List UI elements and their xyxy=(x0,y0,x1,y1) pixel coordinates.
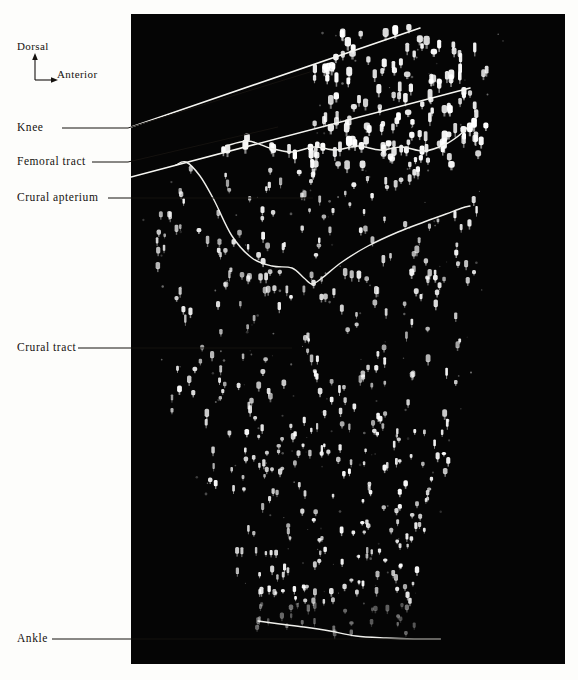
feather-follicle xyxy=(400,603,403,609)
feather-follicle xyxy=(414,522,417,531)
feather-follicle xyxy=(235,547,239,557)
plate-speckle xyxy=(458,375,460,377)
orientation-axes-icon xyxy=(32,53,58,83)
plate-speckle xyxy=(363,432,366,435)
feather-follicle xyxy=(462,92,466,100)
feather-follicle xyxy=(410,454,413,460)
feather-follicle xyxy=(248,196,251,202)
plate-speckle xyxy=(257,427,259,429)
feather-follicle xyxy=(323,410,327,418)
feather-follicle xyxy=(424,258,428,265)
feather-follicle xyxy=(405,109,412,117)
feather-follicle xyxy=(348,424,350,433)
plate-speckle xyxy=(306,437,307,438)
feather-follicle xyxy=(328,227,331,236)
plate-speckle xyxy=(319,105,321,107)
plate-speckle xyxy=(407,437,410,440)
feather-follicle xyxy=(258,589,261,597)
feather-follicle xyxy=(289,605,293,613)
feather-follicle-group xyxy=(142,24,503,639)
plate-speckle xyxy=(265,462,267,464)
feather-follicle xyxy=(363,209,366,216)
feather-follicle xyxy=(208,478,212,484)
feather-follicle xyxy=(371,608,374,613)
plate-speckle xyxy=(196,476,199,479)
plate-speckle xyxy=(235,465,237,467)
feather-follicle xyxy=(414,157,417,164)
feather-follicle xyxy=(413,622,416,629)
feather-follicle xyxy=(456,341,460,351)
feather-follicle xyxy=(383,465,387,474)
plate-speckle xyxy=(385,341,386,342)
plate-speckle xyxy=(411,76,414,79)
feather-follicle xyxy=(335,161,341,169)
feather-follicle xyxy=(373,69,377,82)
feather-follicle xyxy=(345,37,351,51)
feather-follicle xyxy=(452,48,457,58)
feather-follicle xyxy=(371,420,375,428)
feather-follicle xyxy=(319,550,321,556)
feather-follicle xyxy=(330,379,334,385)
feather-follicle xyxy=(258,463,260,470)
feather-follicle xyxy=(383,216,385,223)
plate-speckle xyxy=(360,359,361,360)
annotation-label-crural-apterium: Crural apterium xyxy=(17,191,98,203)
feather-follicle xyxy=(323,599,326,605)
feather-follicle xyxy=(351,104,357,112)
plate-speckle xyxy=(256,314,259,317)
feather-follicle xyxy=(308,450,311,459)
feather-follicle xyxy=(442,409,447,420)
feather-follicle xyxy=(270,467,274,472)
feather-follicle xyxy=(199,359,202,366)
plate-speckle xyxy=(320,527,322,529)
feather-follicle xyxy=(317,559,321,565)
feather-follicle xyxy=(395,539,399,544)
plate-speckle xyxy=(251,354,253,356)
feather-follicle xyxy=(272,285,276,293)
feather-follicle xyxy=(420,101,424,109)
plate-speckle xyxy=(293,395,295,397)
feather-follicle xyxy=(279,177,282,188)
plate-speckle xyxy=(398,538,400,540)
feather-follicle xyxy=(437,219,440,224)
feather-follicle xyxy=(338,385,341,396)
feather-follicle xyxy=(428,113,432,127)
plate-speckle xyxy=(339,510,342,513)
plate-speckle xyxy=(302,346,303,347)
feather-follicle xyxy=(475,206,477,217)
feather-follicle xyxy=(371,549,373,556)
feather-follicle xyxy=(242,354,245,361)
feather-follicle xyxy=(265,451,269,456)
orientation-label-anterior: Anterior xyxy=(57,68,97,80)
feather-follicle xyxy=(473,42,476,56)
feather-follicle xyxy=(424,36,430,49)
feather-follicle xyxy=(442,277,446,283)
feather-follicle xyxy=(416,169,419,180)
feather-follicle xyxy=(426,354,431,365)
feather-follicle xyxy=(278,270,282,276)
feather-follicle xyxy=(270,565,274,575)
plate-speckle xyxy=(387,505,389,507)
feather-follicle xyxy=(171,408,174,414)
feather-follicle xyxy=(224,173,227,179)
feather-follicle xyxy=(257,435,260,440)
feather-follicle xyxy=(293,460,297,467)
feather-follicle xyxy=(277,444,282,449)
plate-speckle xyxy=(321,411,323,413)
feather-follicle xyxy=(176,366,179,373)
plate-speckle xyxy=(460,408,461,409)
feather-follicle xyxy=(214,480,218,489)
plate-speckle xyxy=(290,213,293,216)
feather-follicle xyxy=(435,290,439,298)
feather-follicle xyxy=(363,530,366,534)
feather-follicle xyxy=(339,444,342,453)
plate-speckle xyxy=(467,337,468,338)
plate-speckle xyxy=(257,197,258,198)
feather-follicle xyxy=(303,417,306,426)
feather-follicle xyxy=(281,589,285,593)
feather-follicle xyxy=(415,501,419,508)
feather-follicle xyxy=(436,452,440,462)
feather-follicle xyxy=(275,490,278,497)
feather-follicle xyxy=(219,252,222,260)
plate-speckle xyxy=(302,189,305,192)
